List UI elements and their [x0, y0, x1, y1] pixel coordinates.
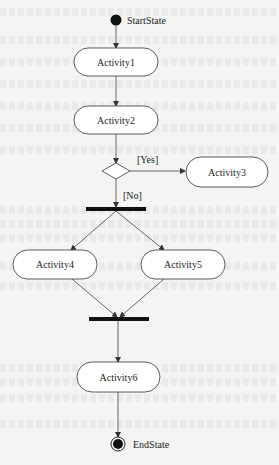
- start-state: StartState: [111, 15, 167, 27]
- decision-diamond-icon: [102, 163, 130, 179]
- edge-activity5-join: [120, 279, 164, 317]
- activity-label: Activity5: [164, 259, 202, 270]
- decision-node: [Yes] [No]: [102, 154, 158, 201]
- edge-activity4-join: [72, 279, 117, 317]
- activity-label: Activity6: [100, 372, 138, 383]
- start-node-icon: [111, 15, 122, 26]
- guard-no-label: [No]: [123, 190, 142, 201]
- end-state-label: EndState: [133, 439, 170, 450]
- edge-fork-activity4: [71, 211, 116, 250]
- activity-node-5: Activity5: [141, 250, 225, 279]
- join-bar: [89, 317, 149, 321]
- activity-diagram: StartState Activity1 Activity2: [0, 0, 279, 465]
- activity-label: Activity4: [36, 259, 74, 270]
- activity-node-3: Activity3: [186, 157, 268, 187]
- activity-node-2: Activity2: [74, 106, 158, 134]
- activity-label: Activity3: [208, 167, 246, 178]
- guard-yes-label: [Yes]: [137, 154, 158, 165]
- end-node-icon: [113, 439, 123, 449]
- activity-node-6: Activity6: [77, 362, 160, 392]
- edge-fork-activity5: [116, 211, 164, 250]
- activity-node-4: Activity4: [13, 250, 97, 279]
- end-state: EndState: [111, 437, 170, 451]
- activity-node-1: Activity1: [74, 48, 158, 76]
- start-state-label: StartState: [127, 15, 166, 26]
- fork-bar: [86, 207, 146, 211]
- activity-label: Activity2: [97, 115, 135, 126]
- diagram-canvas: StartState Activity1 Activity2: [0, 0, 279, 465]
- activity-label: Activity1: [97, 57, 135, 68]
